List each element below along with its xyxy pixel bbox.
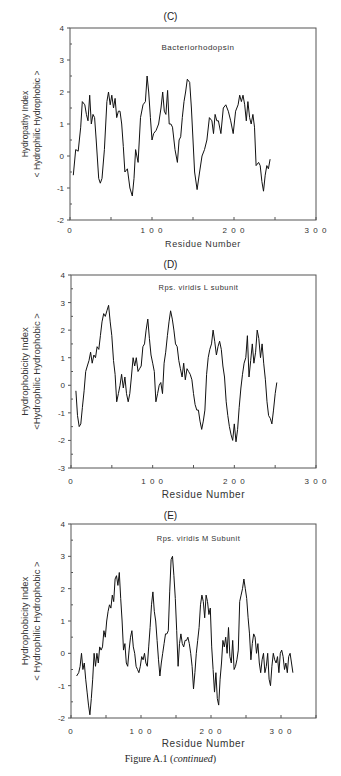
hydropathy-series-line: [73, 76, 270, 196]
y-tick-label: -2: [57, 216, 65, 225]
y-axis-label-line2: <Hydrophilic Hydrophobic >: [31, 313, 42, 430]
y-tick-label: 4: [61, 520, 66, 529]
chart-c: -2-10123401 0 02 0 03 0 0Bacteriorhodops…: [0, 0, 341, 250]
caption-italic: continued: [173, 753, 212, 764]
x-tick-label: 0: [68, 477, 73, 486]
y-tick-label: 0: [61, 381, 66, 390]
y-axis-label-line2: < Hydrophilic Hydrophobic >: [31, 561, 42, 681]
x-tick-label: 2 0 0: [200, 727, 223, 736]
x-tick-label: 1 0 0: [141, 477, 164, 486]
y-tick-label: 2: [61, 326, 66, 335]
y-tick-label: 4: [61, 271, 66, 280]
x-tick-label: 0: [67, 226, 72, 235]
y-tick-label: -2: [58, 714, 66, 723]
y-tick-label: -3: [58, 464, 66, 473]
chart-title: Rps. viridis L subunit: [159, 283, 239, 292]
y-tick-label: 1: [61, 617, 66, 626]
x-tick-label: 1 0 0: [141, 226, 164, 235]
hydropathy-series-line: [77, 556, 293, 715]
x-tick-label: 3 0 0: [270, 727, 293, 736]
y-tick-label: 1: [60, 120, 65, 129]
plot-frame: [70, 28, 316, 220]
hydropathy-series-line: [76, 305, 277, 442]
y-tick-label: 1: [61, 354, 66, 363]
chart-d: -3-2-10123401 0 02 0 03 0 0Rps. viridis …: [0, 255, 341, 505]
x-axis-label: Residue Number: [165, 239, 241, 249]
chart-title: Bacteriorhodopsin: [162, 43, 235, 52]
y-tick-label: 3: [61, 552, 66, 561]
x-axis-label: Residue Number: [162, 489, 246, 500]
y-tick-label: 4: [60, 24, 65, 33]
x-tick-label: 3 0 0: [305, 226, 328, 235]
y-tick-label: 2: [60, 88, 65, 97]
chart-e: -2-10123401 0 02 0 03 0 0Rps. viridis M …: [0, 510, 341, 760]
x-axis-label: Residue Number: [162, 738, 246, 749]
x-tick-label: 2 0 0: [223, 226, 246, 235]
y-tick-label: 2: [61, 585, 66, 594]
x-tick-label: 3 0 0: [305, 477, 328, 486]
y-tick-label: 3: [61, 299, 66, 308]
x-tick-label: 1 0 0: [130, 727, 153, 736]
y-tick-label: -1: [57, 184, 65, 193]
y-tick-label: 0: [60, 152, 65, 161]
y-tick-label: -2: [58, 436, 66, 445]
y-tick-label: -1: [58, 409, 66, 418]
y-tick-label: 0: [61, 649, 66, 658]
chart-title: Rps. viridis M Subunit: [157, 534, 241, 543]
y-tick-label: 3: [60, 56, 65, 65]
figure-caption: Figure A.1 (continued): [0, 753, 341, 764]
y-axis-label-line2: < Hydrophilic Hydrophobic >: [32, 71, 42, 178]
y-tick-label: -1: [58, 682, 66, 691]
y-axis-label-line1: Hydropathy Index: [20, 90, 30, 157]
x-tick-label: 0: [68, 727, 73, 736]
y-axis-label-line1: Hydrophobicity Index: [19, 327, 30, 416]
x-tick-label: 2 0 0: [223, 477, 246, 486]
caption-prefix: Figure A.1 (: [125, 753, 174, 764]
caption-suffix: ): [213, 753, 216, 764]
plot-frame: [71, 275, 316, 468]
y-axis-label-line1: Hydrophobicity Index: [19, 576, 30, 665]
